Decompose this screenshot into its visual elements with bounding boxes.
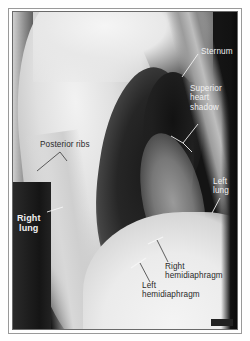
- label-left-lung-line2: lung: [213, 186, 229, 195]
- label-right-lung-line2: lung: [17, 223, 41, 233]
- anterior-dark-edge: [221, 12, 237, 329]
- label-superior-heart-shadow: Superior heart shadow: [190, 84, 222, 112]
- label-superior-heart-shadow-line1: Superior: [190, 84, 222, 93]
- label-left-hemidiaphragm-line2: hemidiaphragm: [142, 290, 200, 299]
- label-sternum: Sternum: [201, 47, 233, 56]
- label-right-hemidiaphragm: Right hemidiaphragm: [165, 262, 223, 281]
- label-right-hemidiaphragm-line1: Right: [165, 262, 223, 271]
- label-left-hemidiaphragm-line1: Left: [142, 281, 200, 290]
- label-right-lung-line1: Right: [17, 213, 41, 223]
- scale-bar: [211, 319, 233, 326]
- label-posterior-ribs: Posterior ribs: [40, 140, 90, 149]
- posterior-lower-dark-band: [13, 182, 51, 330]
- label-superior-heart-shadow-line3: shadow: [190, 103, 222, 112]
- label-superior-heart-shadow-line2: heart: [190, 93, 222, 102]
- label-right-lung: Right lung: [17, 213, 41, 233]
- label-left-hemidiaphragm: Left hemidiaphragm: [142, 281, 200, 300]
- label-right-hemidiaphragm-line2: hemidiaphragm: [165, 271, 223, 280]
- label-left-lung: Left lung: [213, 177, 229, 196]
- label-left-lung-line1: Left: [213, 177, 229, 186]
- chest-xray-image: [12, 11, 238, 330]
